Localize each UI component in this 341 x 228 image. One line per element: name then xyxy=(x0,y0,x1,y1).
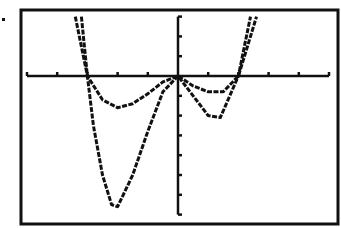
graph-screen xyxy=(0,0,341,228)
curve-2 xyxy=(81,17,250,207)
screen-frame xyxy=(21,10,338,224)
